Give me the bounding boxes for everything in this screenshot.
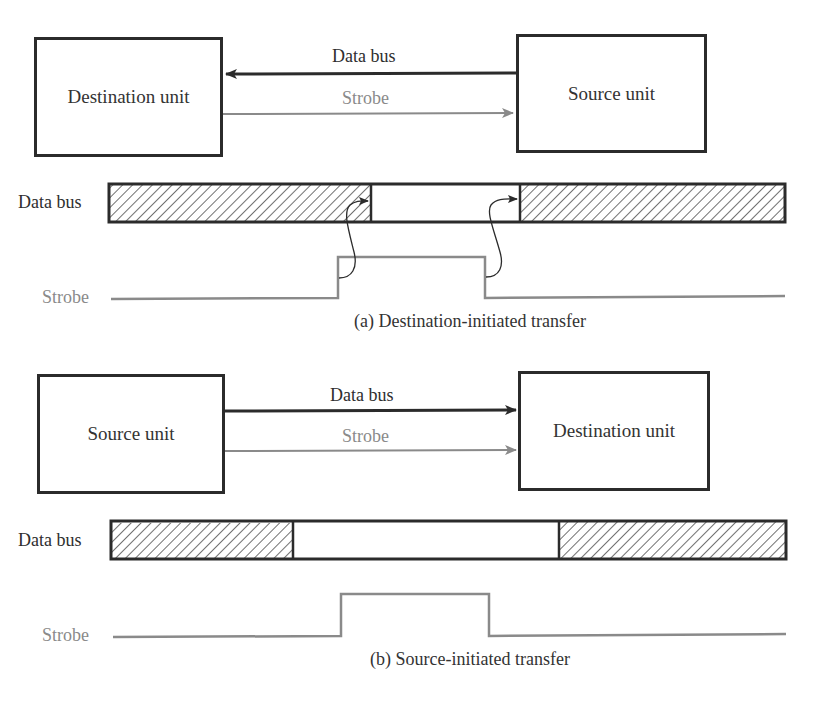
causal-arrow-strobe-fall <box>486 199 517 277</box>
strobe-waveform-a <box>111 257 785 299</box>
strobe-arrow-b <box>225 450 516 451</box>
data-bus-timing-bar-b <box>111 521 786 560</box>
strobe-waveform-b <box>113 594 786 637</box>
data-bus-arrow-b <box>225 410 516 411</box>
data-bus-arrow-a <box>226 73 516 74</box>
data-bus-timing-bar-a <box>109 184 785 222</box>
strobe-arrow-a <box>223 113 513 114</box>
diagram-graphics <box>0 0 814 708</box>
